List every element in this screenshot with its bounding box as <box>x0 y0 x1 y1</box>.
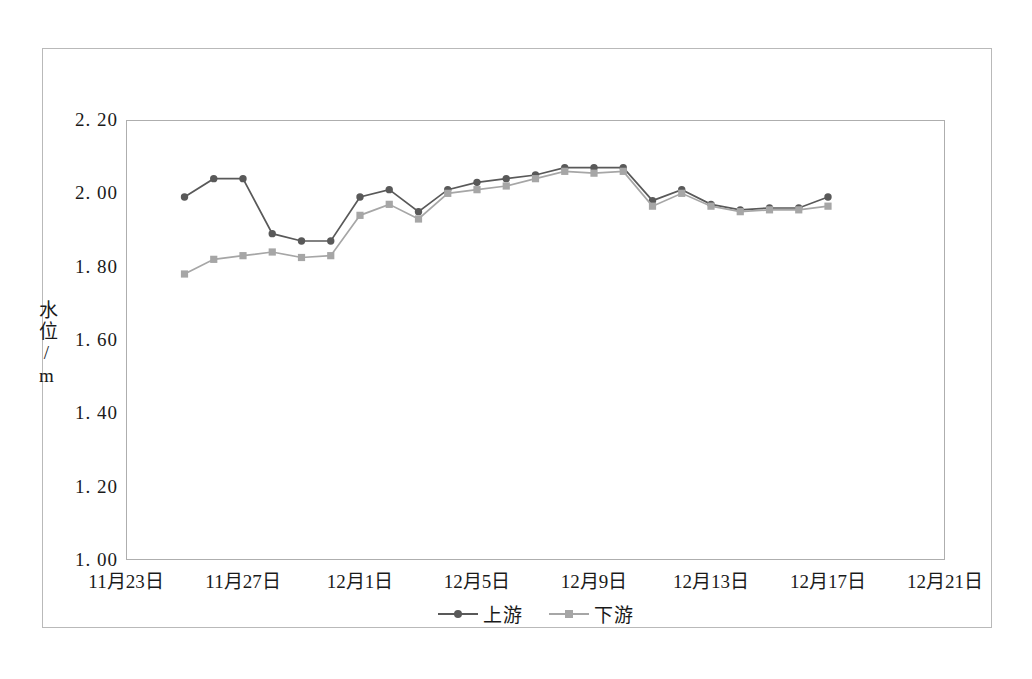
x-axis-tick-label: 12月1日 <box>327 566 394 593</box>
data-point-下游 <box>707 203 714 210</box>
data-point-下游 <box>327 252 334 259</box>
chart-page: 水位/m 2. 202. 001. 801. 601. 401. 201. 00… <box>0 0 1032 679</box>
x-axis-tick-label: 12月9日 <box>561 566 628 593</box>
data-point-上游 <box>824 193 831 200</box>
data-point-下游 <box>269 248 276 255</box>
y-axis-tick-label: 1. 80 <box>75 256 118 278</box>
legend-label: 上游 <box>483 600 523 627</box>
y-axis-tick-label: 1. 20 <box>75 476 118 498</box>
data-point-下游 <box>649 203 656 210</box>
legend-marker-glyph <box>454 610 462 618</box>
x-axis-tick-label: 11月27日 <box>205 566 280 593</box>
y-axis-tick-labels: 2. 202. 001. 801. 601. 401. 201. 00 <box>56 120 118 560</box>
data-point-下游 <box>795 206 802 213</box>
data-point-下游 <box>415 215 422 222</box>
x-axis-tick-label: 11月23日 <box>88 566 163 593</box>
data-point-上游 <box>327 237 334 244</box>
x-axis-tick-label: 12月21日 <box>907 566 983 593</box>
data-point-上游 <box>210 175 217 182</box>
x-axis-tick-labels: 11月23日11月27日12月1日12月5日12月9日12月13日12月17日1… <box>126 566 945 596</box>
data-point-下游 <box>503 182 510 189</box>
plot-wrapper <box>126 120 945 560</box>
data-point-上游 <box>473 179 480 186</box>
data-point-下游 <box>766 206 773 213</box>
data-point-下游 <box>444 190 451 197</box>
data-point-下游 <box>678 190 685 197</box>
data-point-上游 <box>356 193 363 200</box>
data-point-上游 <box>386 186 393 193</box>
data-point-下游 <box>737 208 744 215</box>
data-point-上游 <box>503 175 510 182</box>
y-axis-tick-label: 1. 60 <box>75 329 118 351</box>
legend-item-下游[interactable]: 下游 <box>549 600 634 627</box>
x-axis-tick-label: 12月5日 <box>444 566 511 593</box>
legend-item-上游[interactable]: 上游 <box>438 600 523 627</box>
legend-label: 下游 <box>594 600 634 627</box>
y-axis-tick-label: 1. 40 <box>75 402 118 424</box>
legend-square-marker-icon <box>549 607 589 620</box>
chart-legend: 上游下游 <box>126 600 945 627</box>
data-point-下游 <box>239 252 246 259</box>
data-point-下游 <box>473 186 480 193</box>
x-axis-tick-label: 12月13日 <box>673 566 749 593</box>
data-point-上游 <box>181 193 188 200</box>
legend-circle-marker-icon <box>438 607 478 620</box>
x-axis-tick-label: 12月17日 <box>790 566 866 593</box>
data-point-下游 <box>590 170 597 177</box>
data-point-上游 <box>239 175 246 182</box>
data-point-下游 <box>181 270 188 277</box>
data-point-下游 <box>532 175 539 182</box>
series-layer <box>126 120 945 560</box>
data-point-下游 <box>561 168 568 175</box>
legend-marker-glyph <box>565 610 573 618</box>
data-point-下游 <box>824 203 831 210</box>
data-point-下游 <box>210 256 217 263</box>
y-axis-tick-label: 2. 20 <box>75 109 118 131</box>
data-point-上游 <box>298 237 305 244</box>
data-point-下游 <box>298 254 305 261</box>
data-point-上游 <box>269 230 276 237</box>
y-axis-tick-label: 2. 00 <box>75 182 118 204</box>
data-point-下游 <box>356 212 363 219</box>
data-point-下游 <box>620 168 627 175</box>
data-point-下游 <box>386 201 393 208</box>
data-point-上游 <box>415 208 422 215</box>
